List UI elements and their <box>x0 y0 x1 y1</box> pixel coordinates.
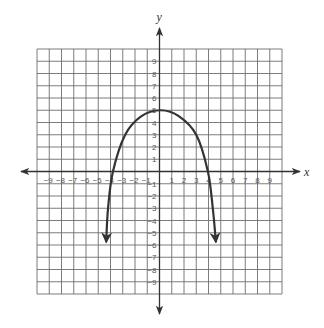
x-tick-label: −2 <box>129 176 139 185</box>
y-tick-label: 2 <box>152 143 157 152</box>
y-tick-label: 4 <box>152 119 157 128</box>
x-tick-label: −8 <box>56 176 66 185</box>
y-tick-label: −1 <box>147 180 157 189</box>
y-tick-label: 9 <box>152 57 157 66</box>
x-tick-label: −5 <box>93 176 103 185</box>
x-tick-label: 2 <box>182 176 187 185</box>
y-tick-label: −7 <box>147 253 157 262</box>
y-tick-label: −9 <box>147 278 157 287</box>
y-tick-label: 7 <box>152 82 157 91</box>
y-tick-label: −6 <box>147 241 157 250</box>
x-tick-label: −7 <box>68 176 78 185</box>
y-tick-label: −8 <box>147 266 157 275</box>
y-tick-label: −5 <box>147 229 157 238</box>
axes: x y <box>21 10 310 314</box>
x-tick-label: 7 <box>243 176 248 185</box>
x-axis-label: x <box>303 165 310 179</box>
y-axis-label: y <box>156 10 163 24</box>
y-tick-label: 8 <box>152 70 157 79</box>
x-tick-label: −6 <box>80 176 90 185</box>
y-tick-label: 3 <box>152 131 157 140</box>
x-tick-label: 3 <box>194 176 199 185</box>
x-tick-label: 5 <box>219 176 224 185</box>
y-tick-label: 6 <box>152 94 157 103</box>
y-tick-label: 1 <box>152 155 157 164</box>
x-tick-label: 1 <box>170 176 175 185</box>
coordinate-plane: x y −9−8−7−6−5−4−3−2−1123456789 98765432… <box>0 0 324 328</box>
y-tick-label: −3 <box>147 204 157 213</box>
y-tick-label: −4 <box>147 217 157 226</box>
x-tick-label: −9 <box>44 176 54 185</box>
x-tick-labels: −9−8−7−6−5−4−3−2−1123456789 <box>44 176 273 185</box>
x-tick-label: 6 <box>231 176 236 185</box>
y-tick-label: −2 <box>147 192 157 201</box>
x-tick-label: 9 <box>268 176 273 185</box>
x-tick-label: 8 <box>255 176 260 185</box>
x-tick-label: −3 <box>117 176 127 185</box>
